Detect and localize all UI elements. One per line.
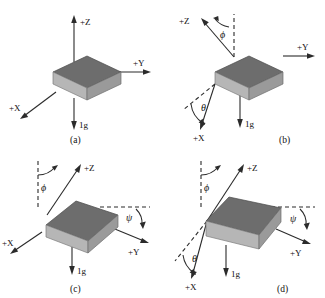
psi-arc-arrowhead-d (304, 222, 310, 230)
psi-label-c: ψ (126, 212, 133, 223)
panel-d-diagram: +Z ϕ +Y ψ +X θ (163, 149, 325, 298)
y-axis-label-d: +Y (290, 248, 302, 258)
y-axis-label-a: +Y (133, 58, 145, 68)
y-axis-arrowhead-c (140, 238, 149, 243)
panel-b-diagram: +Z ϕ +Y +X θ 1g (163, 0, 325, 149)
panel-c: +Z ϕ +Y ψ +X 1g (0, 149, 162, 298)
panel-b: +Z ϕ +Y +X θ 1g (163, 0, 325, 149)
psi-arc-c (136, 209, 142, 225)
z-axis-label-b: +Z (179, 16, 190, 26)
gravity-label-d: 1g (231, 269, 241, 279)
gravity-label-c: 1g (77, 266, 87, 276)
phi-arc-c (38, 167, 55, 175)
x-axis-label-a: +X (9, 103, 21, 113)
x-axis-line-a (24, 92, 56, 116)
z-axis-arrowhead-a (71, 15, 77, 23)
z-axis-label-d: +Z (247, 163, 258, 173)
panel-caption-d: (d) (277, 284, 288, 295)
gravity-arrowhead-c (69, 266, 75, 275)
theta-label-b: θ (201, 102, 206, 113)
figure-container: +Z +Y +X 1g (a) +Z (0, 0, 325, 298)
gravity-arrowhead-d (223, 268, 229, 277)
panel-caption-c: (c) (70, 284, 81, 295)
theta-label-d: θ (192, 253, 197, 264)
theta-reference-dashed-line-d (175, 221, 207, 261)
panel-c-diagram: +Z ϕ +Y ψ +X 1g (0, 149, 162, 298)
gravity-arrowhead-b (237, 119, 243, 128)
x-axis-line-d (193, 221, 207, 273)
z-axis-arrowhead-c (75, 164, 82, 173)
panel-d: +Z ϕ +Y ψ +X θ (163, 149, 325, 298)
x-axis-line-c (14, 232, 42, 251)
y-axis-label-b: +Y (297, 42, 309, 52)
y-axis-line-d (276, 229, 306, 242)
psi-label-d: ψ (290, 213, 297, 224)
z-axis-label-a: +Z (80, 17, 91, 27)
phi-label-c: ϕ (41, 182, 46, 193)
z-axis-label-c: +Z (84, 163, 95, 173)
psi-arc-d (300, 209, 306, 226)
x-axis-label-d: +X (185, 282, 197, 292)
y-axis-arrowhead-d (302, 239, 311, 244)
gravity-arrowhead-a (71, 121, 77, 130)
phi-arc-d (201, 167, 218, 175)
gravity-label-b: 1g (245, 119, 255, 129)
psi-arc-arrowhead-c (140, 221, 146, 229)
y-axis-arrowhead-b (307, 53, 315, 59)
panel-a-diagram: +Z +Y +X 1g (a) (0, 0, 162, 149)
panel-caption-b: (b) (279, 135, 290, 146)
z-axis-arrowhead-d (238, 164, 245, 173)
x-axis-arrowhead-c (10, 247, 18, 254)
z-axis-line-b (204, 22, 234, 57)
phi-label-b: ϕ (220, 29, 225, 40)
y-axis-label-c: +Y (128, 247, 140, 257)
z-axis-arrowhead-b (201, 18, 209, 26)
x-axis-label-b: +X (193, 133, 205, 143)
x-axis-label-c: +X (2, 238, 14, 248)
panel-caption-a: (a) (70, 135, 81, 146)
y-axis-arrowhead-a (143, 69, 151, 75)
phi-label-d: ϕ (204, 182, 209, 193)
panel-a: +Z +Y +X 1g (a) (0, 0, 162, 149)
gravity-label-a: 1g (79, 120, 89, 130)
